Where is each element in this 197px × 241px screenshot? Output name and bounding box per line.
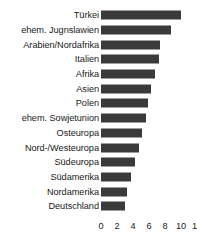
bar-category-label: Arabien/Nordafrika: [0, 40, 101, 50]
bar-row: Südeuropa: [0, 155, 197, 170]
bar-value-9: [101, 143, 139, 152]
bar-row: Südamerika: [0, 170, 197, 185]
bar-category-label: Asien: [0, 84, 101, 94]
bar-category-label: Italien: [0, 54, 101, 64]
bar-value-1: [101, 26, 171, 35]
bar-row: Italien: [0, 52, 197, 67]
bar-track: [101, 81, 197, 96]
bar-track: [101, 52, 197, 67]
bar-value-13: [101, 202, 125, 211]
bar-value-5: [101, 84, 151, 93]
bar-value-4: [101, 70, 155, 79]
x-tick-label: 0: [98, 221, 103, 232]
bar-row: Afrika: [0, 67, 197, 82]
plot-area: Türkeiehem. JugnslawienArabien/Nordafrik…: [0, 8, 197, 214]
x-tick-label: 4: [130, 221, 135, 232]
bar-value-11: [101, 172, 131, 181]
bar-track: [101, 126, 197, 141]
bar-category-label: Nordamerika: [0, 187, 101, 197]
bar-row: ehem. Sowjetunion: [0, 111, 197, 126]
bar-category-label: Südamerika: [0, 172, 101, 182]
bar-category-label: Südeuropa: [0, 157, 101, 167]
bar-category-label: Deutschland: [0, 201, 101, 211]
bar-track: [101, 67, 197, 82]
bar-track: [101, 199, 197, 214]
bar-row: Nord-/Westeuropa: [0, 140, 197, 155]
bar-category-label: ehem. Jugnslawien: [0, 25, 101, 35]
bar-value-10: [101, 158, 135, 167]
bar-row: Polen: [0, 96, 197, 111]
bar-row: ehem. Jugnslawien: [0, 23, 197, 38]
bar-chart: Türkeiehem. JugnslawienArabien/Nordafrik…: [0, 0, 197, 241]
bar-value-2: [101, 40, 160, 49]
bar-category-label: Polen: [0, 98, 101, 108]
bar-row: Asien: [0, 81, 197, 96]
x-tick-label: 10: [176, 221, 186, 232]
bar-row: Osteuropa: [0, 126, 197, 141]
bar-track: [101, 111, 197, 126]
x-tick-label: 8: [162, 221, 167, 232]
bar-value-7: [101, 114, 146, 123]
bar-value-0: [101, 11, 181, 20]
bar-value-6: [101, 99, 148, 108]
bar-value-12: [101, 187, 127, 196]
bar-row: Türkei: [0, 8, 197, 23]
bar-track: [101, 23, 197, 38]
bar-track: [101, 8, 197, 23]
x-tick-label: 6: [146, 221, 151, 232]
bar-track: [101, 140, 197, 155]
bar-track: [101, 155, 197, 170]
bar-category-label: ehem. Sowjetunion: [0, 113, 101, 123]
bar-track: [101, 184, 197, 199]
bar-row: Deutschland: [0, 199, 197, 214]
x-tick-label: 12: [192, 221, 197, 232]
bar-value-8: [101, 128, 142, 137]
bar-category-label: Afrika: [0, 69, 101, 79]
bar-category-label: Osteuropa: [0, 128, 101, 138]
bar-track: [101, 37, 197, 52]
bar-track: [101, 96, 197, 111]
bar-value-3: [101, 55, 159, 64]
x-axis: 024681012: [0, 214, 197, 241]
bar-row: Arabien/Nordafrika: [0, 37, 197, 52]
bar-row: Nordamerika: [0, 184, 197, 199]
bar-category-label: Nord-/Westeuropa: [0, 143, 101, 153]
x-tick-label: 2: [114, 221, 119, 232]
bar-track: [101, 170, 197, 185]
x-axis-tick-labels: 024681012: [101, 214, 197, 241]
bar-category-label: Türkei: [0, 10, 101, 20]
